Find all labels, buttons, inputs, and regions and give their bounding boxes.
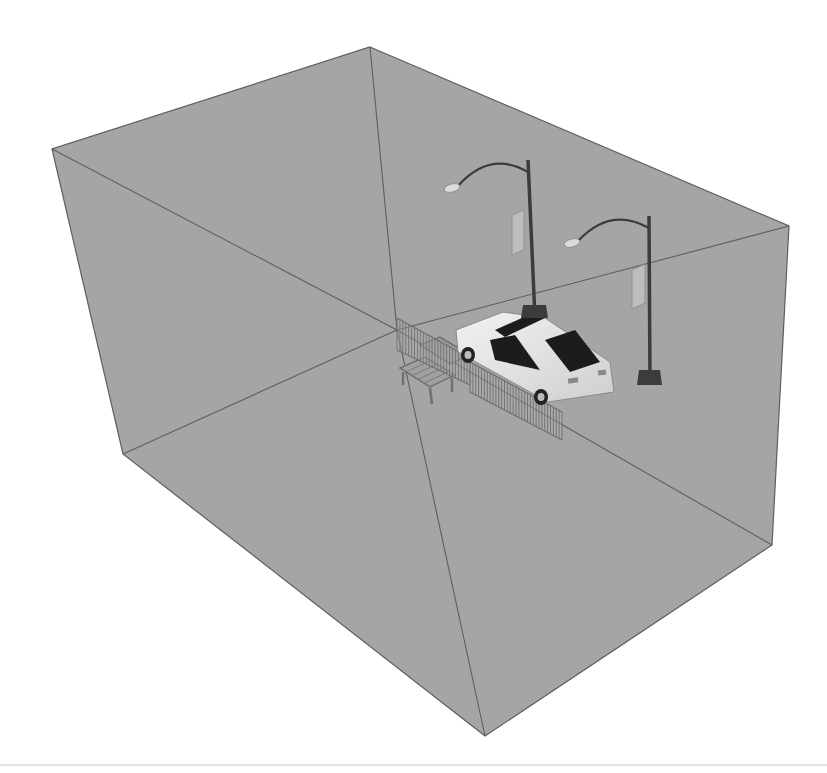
car-hubcap <box>465 351 472 359</box>
box-silhouette[interactable] <box>52 47 789 736</box>
translucent-box[interactable] <box>52 47 789 736</box>
lamp-pole <box>649 216 650 383</box>
lamp-base <box>521 305 548 318</box>
lamp-banner <box>512 210 524 255</box>
3d-scene-viewport[interactable] <box>0 0 827 773</box>
car-hubcap <box>538 393 545 401</box>
lamp-banner <box>632 264 645 309</box>
lamp-base <box>637 370 662 385</box>
